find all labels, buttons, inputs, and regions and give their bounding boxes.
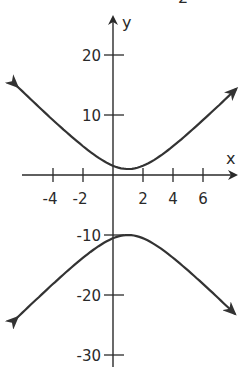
lower-branch-curve (17, 235, 235, 318)
y-tick-label: -30 (77, 347, 102, 365)
x-tick-label: 2 (138, 190, 148, 208)
x-tick-label: 6 (198, 190, 208, 208)
y-tick-label: -20 (77, 287, 102, 305)
y-ticks (104, 55, 124, 355)
y-axis-label: y (122, 13, 131, 32)
x-tick-label: -4 (43, 190, 58, 208)
x-tick-labels: -4 -2 2 4 6 (43, 190, 208, 208)
x-tick-label: -2 (73, 190, 88, 208)
x-axis-label: x (226, 149, 235, 168)
y-tick-label: -10 (77, 227, 102, 245)
y-tick-label: 10 (82, 107, 101, 125)
x-tick-label: 4 (168, 190, 178, 208)
hyperbola-plot: 2 x y -4 -2 2 4 6 20 10 -10 -20 -30 (0, 0, 244, 367)
y-tick-label: 20 (82, 47, 101, 65)
upper-branch-curve (17, 86, 236, 169)
partial-top-label: 2 (178, 0, 188, 7)
